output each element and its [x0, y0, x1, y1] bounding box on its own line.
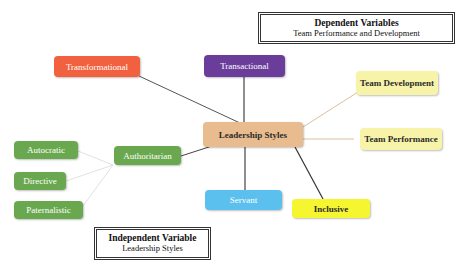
leadership-diagram: Dependent Variables Team Performance and…	[0, 0, 470, 275]
link-directive	[66, 165, 113, 181]
independent-variable-box: Independent Variable Leadership Styles	[96, 229, 209, 258]
link-autocratic	[78, 151, 113, 165]
node-paternalistic: Paternalistic	[14, 201, 83, 219]
link-paternalistic	[83, 165, 113, 206]
node-inclusive: Inclusive	[292, 199, 370, 218]
node-servant: Servant	[205, 190, 282, 210]
node-team-performance: Team Performance	[360, 128, 442, 150]
link-inclusive	[295, 147, 323, 199]
node-authoritarian: Authoritarian	[114, 146, 181, 165]
node-team-development: Team Development	[356, 71, 438, 95]
node-autocratic: Autocratic	[14, 141, 78, 159]
node-directive: Directive	[14, 172, 66, 190]
node-leadership-styles: Leadership Styles	[203, 122, 303, 147]
link-authoritarian	[181, 146, 212, 156]
independent-variable-subtitle: Leadership Styles	[122, 244, 183, 254]
node-transactional: Transactional	[204, 55, 285, 77]
dependent-variables-box: Dependent Variables Team Performance and…	[260, 14, 453, 42]
node-transformational: Transformational	[54, 56, 140, 77]
dependent-variables-subtitle: Team Performance and Development	[293, 29, 420, 39]
link-transformational	[139, 76, 240, 123]
dependent-variables-title: Dependent Variables	[314, 18, 398, 29]
link-team-development	[303, 92, 358, 127]
